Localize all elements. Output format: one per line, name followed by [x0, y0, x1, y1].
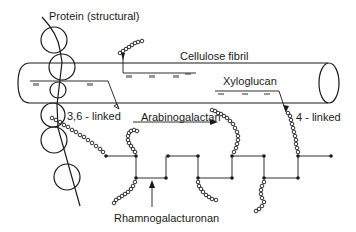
- label-arabinogalactan: Arabinogalactan: [141, 112, 221, 123]
- cellulose-fibril: [18, 63, 339, 103]
- label-xyloglucan: Xyloglucan: [223, 76, 277, 87]
- xyloglucan-chain-right: [215, 91, 286, 112]
- label-rhamnogalacturonan: Rhamnogalacturonan: [114, 213, 219, 224]
- xyloglucan-top-arrow: [121, 53, 125, 60]
- side-chain-below-3: [254, 180, 266, 213]
- xyloglucan-chain-left: [30, 81, 119, 109]
- label-36-linked: 3,6 - linked: [67, 111, 121, 122]
- label-protein-structural: Protein (structural): [49, 11, 139, 22]
- side-chain-below-2: [196, 180, 218, 202]
- label-cellulose-fibril: Cellulose fibril: [180, 51, 248, 62]
- rhamnogalacturonan-arrow: [149, 180, 155, 207]
- rhamnogalacturonan-backbone: [104, 154, 333, 180]
- bead-chain-top: [118, 39, 144, 55]
- arabinogalactan-chain-1: [126, 128, 139, 154]
- side-chain-below-1: [112, 180, 137, 205]
- label-4-linked: 4 - linked: [296, 112, 341, 123]
